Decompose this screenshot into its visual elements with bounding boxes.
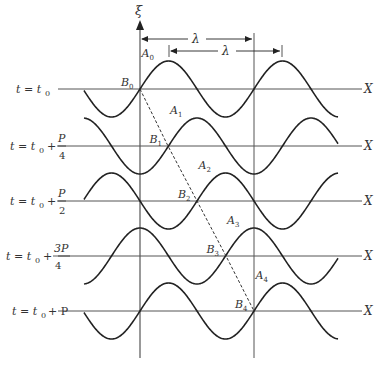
- wave-row-0: Xt = t0B0A0: [16, 47, 373, 117]
- time-label-plus: +: [47, 195, 56, 208]
- time-label-text: t = t: [16, 83, 42, 96]
- a-crest-sub: 2: [207, 166, 211, 174]
- time-label-sub: 0: [35, 256, 40, 265]
- time-label-frac-den: 4: [55, 260, 61, 271]
- time-label-sub: 0: [45, 89, 50, 98]
- a-crest-label: A: [226, 214, 235, 227]
- a-crest-sub: 1: [178, 111, 182, 119]
- time-label-sub: 0: [41, 311, 46, 320]
- xi-axis-label: ξ: [135, 3, 143, 18]
- time-label-frac-num: 3P: [54, 242, 69, 255]
- time-label-frac-num: P: [57, 187, 66, 200]
- time-label-text: t = t: [10, 140, 36, 153]
- a-crest-sub: 4: [264, 276, 269, 284]
- b-point-label: B: [149, 133, 158, 146]
- time-label-text: t = t: [6, 250, 32, 263]
- time-label: t = t0+P2: [10, 187, 66, 216]
- x-axis-label: X: [363, 139, 373, 153]
- b-point-label: B: [206, 243, 215, 256]
- a-crest-label: A: [198, 159, 207, 172]
- x-axis-label: X: [363, 249, 373, 263]
- time-label-frac-den: 4: [59, 150, 65, 161]
- lambda-label-2: λ: [221, 44, 230, 58]
- b-point-sub: 0: [129, 83, 133, 91]
- time-label-sub: 0: [39, 146, 44, 155]
- b-point-label: B: [120, 76, 129, 89]
- b-point-label: B: [234, 298, 243, 311]
- wave-row-1: Xt = t0+P4B1A1: [10, 104, 373, 174]
- time-label-frac-num: P: [57, 132, 66, 145]
- a-crest-label: A: [255, 269, 264, 282]
- b-point-sub: 3: [215, 250, 219, 258]
- a-crest-label: A: [169, 104, 178, 117]
- time-label-sub: 0: [39, 201, 44, 210]
- x-axis-label: X: [363, 304, 373, 318]
- b-point-sub: 4: [243, 305, 248, 313]
- time-label: t = t0: [16, 83, 50, 98]
- x-axis-label: X: [363, 82, 373, 96]
- x-axis-label: X: [363, 194, 373, 208]
- b-point-sub: 2: [186, 195, 190, 203]
- b-point-sub: 1: [158, 140, 162, 148]
- time-label-plus: + P: [48, 305, 69, 318]
- a-crest-sub: 3: [235, 221, 239, 229]
- time-label: t = t0+P4: [10, 132, 66, 161]
- a-crest-label: A: [141, 47, 150, 60]
- lambda-label-1: λ: [191, 32, 200, 46]
- time-label-frac-den: 2: [59, 205, 65, 216]
- wave-row-4: Xt = t0+ PB4A4: [12, 269, 373, 339]
- a-crest-sub: 0: [150, 54, 154, 62]
- time-label: t = t0+ P: [12, 305, 69, 320]
- time-label-text: t = t: [10, 195, 36, 208]
- wave-row-2: Xt = t0+P2B2A2: [10, 159, 373, 229]
- time-label-text: t = t: [12, 305, 38, 318]
- time-label-plus: +: [43, 250, 52, 263]
- wave-row-3: Xt = t0+3P4B3A3: [6, 214, 373, 284]
- b-point-label: B: [177, 188, 186, 201]
- time-label-plus: +: [47, 140, 56, 153]
- traveling-wave-diagram: ξ λ λ Xt = t0B0A0Xt = t0+P4B1A1Xt = t0+P…: [0, 0, 386, 373]
- xi-axis-arrow-icon: [136, 20, 144, 30]
